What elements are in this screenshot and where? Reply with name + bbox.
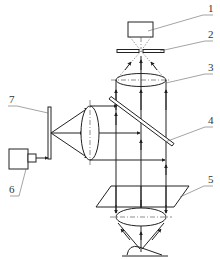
left-lens xyxy=(81,100,99,166)
horizontal-rays xyxy=(90,106,166,175)
label-5: 5 xyxy=(208,173,214,185)
label-6: 6 xyxy=(9,183,15,195)
component-5-inclined-plane xyxy=(96,186,189,207)
label-2: 2 xyxy=(208,28,214,40)
objective-lens xyxy=(110,200,172,226)
label-4: 4 xyxy=(208,114,214,126)
component-2-pinhole-plate xyxy=(117,50,164,53)
component-1-detector xyxy=(128,22,153,37)
label-1: 1 xyxy=(208,2,214,14)
optical-diagram: 1 2 3 4 5 6 7 xyxy=(0,0,220,259)
label-3: 3 xyxy=(208,61,214,73)
sample-surface xyxy=(122,246,168,256)
component-7-pinhole-plate xyxy=(48,107,51,159)
component-6-light-source xyxy=(9,149,48,169)
label-7: 7 xyxy=(9,93,15,105)
